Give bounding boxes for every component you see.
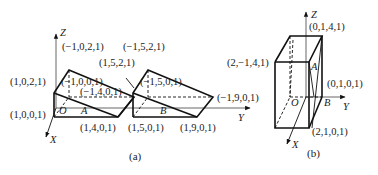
label-1-5-2: (1,5,2,1)	[99, 57, 135, 69]
x-label-b: X	[291, 139, 299, 150]
box-bottom-right-edge	[309, 97, 322, 128]
z-label-b: Z	[311, 9, 317, 20]
region-b-label-b: B	[324, 97, 331, 108]
box-hidden-4	[275, 97, 290, 128]
box-b	[275, 36, 322, 128]
diagram-canvas: Z Y X O A B (−1,0,2,1) (−1,5,2,1) (1,5,2…	[0, 0, 378, 175]
figure-b: Z Y X O A B (0,1,4,1) (2,−1,4,1) (0,1,0,…	[227, 9, 363, 160]
caption-a: (a)	[129, 150, 142, 163]
box-diagonal-1	[312, 36, 322, 128]
figure-a: Z Y X O A B (−1,0,2,1) (−1,5,2,1) (1,5,2…	[10, 27, 259, 163]
block-b-hidden-3	[133, 97, 148, 117]
z-label-a: Z	[60, 27, 66, 38]
label-1-0-0: (1,0,0,1)	[10, 109, 46, 121]
origin-label-a: O	[59, 105, 67, 116]
y-label-b: Y	[343, 101, 350, 112]
origin-label-b: O	[291, 97, 299, 108]
label-1-5-0: (1,5,0,1)	[128, 122, 164, 134]
label-2-m1-4: (2,−1,4,1)	[227, 57, 269, 69]
leader-line	[126, 78, 134, 88]
block-a-edge-2	[118, 97, 134, 117]
label-m1-5-2: (−1,5,2,1)	[123, 41, 165, 53]
label-0-1-0: (0,1,0,1)	[327, 78, 363, 90]
label-1-9-0: (1,9,0,1)	[180, 122, 216, 134]
region-b-label: B	[160, 105, 167, 116]
box-top-face	[275, 36, 322, 62]
label-m1-4-0: (−1,4,0,1)	[80, 86, 122, 98]
y-label-a: Y	[238, 112, 245, 123]
label-1-4-0: (1,4,0,1)	[80, 122, 116, 134]
label-2-1-0: (2,1,0,1)	[312, 126, 348, 138]
region-a-label: A	[80, 105, 88, 116]
region-a-label-b: A	[310, 61, 318, 72]
label-m1-9-0: (−1,9,0,1)	[217, 92, 259, 104]
label-m1-5-0: (−1,5,0,1)	[140, 76, 182, 88]
x-label-a: X	[49, 134, 57, 145]
caption-b: (b)	[307, 147, 320, 160]
box-hidden-2	[290, 40, 293, 97]
label-0-1-4: (0,1,4,1)	[309, 21, 345, 33]
label-1-0-2: (1,0,2,1)	[10, 76, 46, 88]
label-m1-0-2: (−1,0,2,1)	[62, 41, 104, 53]
